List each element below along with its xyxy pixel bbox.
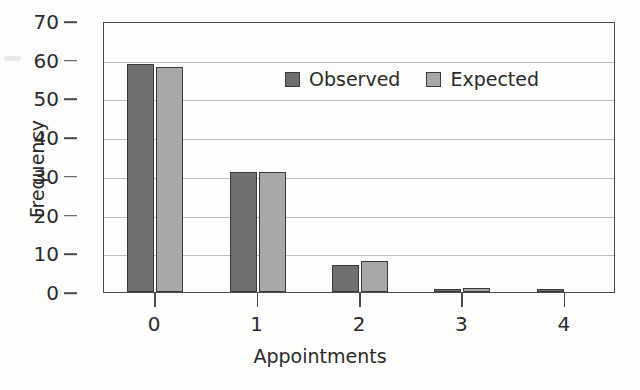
y-axis: 010203040506070 xyxy=(0,0,103,320)
bar-observed-0 xyxy=(127,64,154,292)
y-tick-label: 40 xyxy=(34,126,59,150)
y-tick-label: 10 xyxy=(34,242,59,266)
legend-item-expected: Expected xyxy=(426,68,539,90)
y-tick-label: 20 xyxy=(34,204,59,228)
y-tick-mark xyxy=(64,21,77,23)
chart-legend: ObservedExpected xyxy=(285,68,539,90)
bar-observed-3 xyxy=(434,289,461,292)
y-tick-mark xyxy=(64,60,77,62)
bar-observed-2 xyxy=(332,265,359,292)
legend-swatch-icon xyxy=(285,72,300,87)
y-tick-label: 50 xyxy=(34,87,59,111)
x-tick-mark xyxy=(154,293,156,307)
y-tick-label: 30 xyxy=(34,165,59,189)
x-tick-label: 0 xyxy=(148,312,161,336)
y-tick-mark xyxy=(64,137,77,139)
bar-expected-0 xyxy=(156,67,183,292)
x-axis-title: Appointments xyxy=(0,345,640,367)
y-tick-label: 60 xyxy=(34,49,59,73)
plot-area xyxy=(103,22,615,293)
y-tick-mark xyxy=(64,176,77,178)
y-tick-mark xyxy=(64,215,77,217)
bar-observed-1 xyxy=(230,172,257,292)
legend-label: Observed xyxy=(309,68,400,90)
bar-observed-4 xyxy=(537,289,564,292)
y-tick-mark xyxy=(64,292,77,294)
legend-item-observed: Observed xyxy=(285,68,400,90)
x-tick-mark xyxy=(359,293,361,307)
bar-expected-2 xyxy=(361,261,388,292)
x-tick-mark xyxy=(564,293,566,307)
x-tick-label: 3 xyxy=(455,312,468,336)
y-tick-label: 0 xyxy=(46,281,59,305)
legend-swatch-icon xyxy=(426,72,441,87)
y-tick-mark xyxy=(64,99,77,101)
x-tick-label: 2 xyxy=(353,312,366,336)
gridline xyxy=(104,62,614,63)
x-tick-mark xyxy=(257,293,259,307)
x-tick-label: 1 xyxy=(250,312,263,336)
x-tick-label: 4 xyxy=(557,312,570,336)
y-tick-label: 70 xyxy=(34,10,59,34)
chart-figure: Frequency 010203040506070 01234 Appointm… xyxy=(0,0,640,390)
legend-label: Expected xyxy=(450,68,539,90)
x-tick-mark xyxy=(461,293,463,307)
bar-expected-1 xyxy=(259,172,286,292)
bar-expected-3 xyxy=(463,288,490,292)
y-tick-mark xyxy=(64,253,77,255)
